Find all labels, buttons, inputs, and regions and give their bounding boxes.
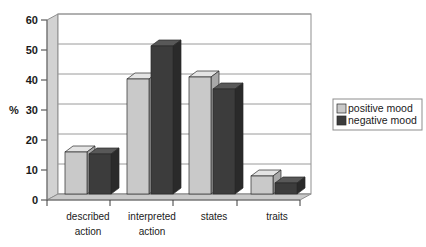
ytick-label-30: 30	[26, 104, 38, 116]
bar-side-face	[173, 40, 181, 194]
bar-interpreted-action-negative-mood	[151, 40, 181, 194]
x-axis	[47, 200, 300, 206]
chart-canvas: 60 50 40 30 20 10 0 %	[0, 0, 426, 247]
x-axis-category-labels: described action interpreted action stat…	[66, 211, 288, 237]
legend-item-negative-mood[interactable]: negative mood	[337, 114, 417, 126]
ytick-label-50: 50	[26, 44, 38, 56]
category-label-line1: traits	[266, 211, 288, 222]
legend-swatch-positive-mood	[337, 104, 346, 113]
category-label-line1: described	[66, 211, 109, 222]
bar-side-face	[235, 83, 243, 194]
plot-floor	[47, 194, 311, 200]
bar-front-face	[213, 89, 235, 194]
bar-group-described-action	[65, 146, 119, 194]
bar-states-negative-mood	[213, 83, 243, 194]
legend-item-positive-mood[interactable]: positive mood	[337, 102, 413, 114]
bar-side-face	[111, 148, 119, 194]
bar-described-action-negative-mood	[89, 148, 119, 194]
category-label-traits: traits	[266, 211, 288, 222]
bar-front-face	[151, 46, 173, 194]
bar-front-face	[65, 152, 87, 194]
bar-front-face	[275, 183, 297, 194]
category-label-described-action: described action	[66, 211, 109, 237]
ytick-label-40: 40	[26, 74, 38, 86]
legend-label-negative-mood: negative mood	[348, 114, 417, 126]
bar-chart: 60 50 40 30 20 10 0 %	[0, 0, 426, 247]
bar-front-face	[189, 77, 211, 194]
legend-label-positive-mood: positive mood	[348, 102, 413, 114]
y-axis-ticks	[41, 20, 47, 200]
bar-front-face	[251, 176, 273, 194]
bar-group-states	[189, 71, 243, 194]
ytick-label-10: 10	[26, 164, 38, 176]
axis-wall-left	[47, 14, 58, 200]
y-axis-tick-labels: 60 50 40 30 20 10 0	[26, 14, 38, 206]
category-label-states: states	[201, 211, 228, 222]
bar-front-face	[127, 79, 149, 194]
ytick-label-20: 20	[26, 134, 38, 146]
category-label-line1: interpreted	[128, 211, 176, 222]
bar-traits-negative-mood	[275, 177, 305, 194]
ytick-label-60: 60	[26, 14, 38, 26]
category-label-interpreted-action: interpreted action	[128, 211, 176, 237]
category-label-line2: action	[139, 226, 166, 237]
y-axis-unit-label: %	[9, 104, 19, 116]
category-label-line1: states	[201, 211, 228, 222]
bar-front-face	[89, 154, 111, 194]
ytick-label-0: 0	[32, 194, 38, 206]
legend: positive mood negative mood	[333, 99, 422, 130]
legend-swatch-negative-mood	[337, 116, 346, 125]
category-label-line2: action	[75, 226, 102, 237]
